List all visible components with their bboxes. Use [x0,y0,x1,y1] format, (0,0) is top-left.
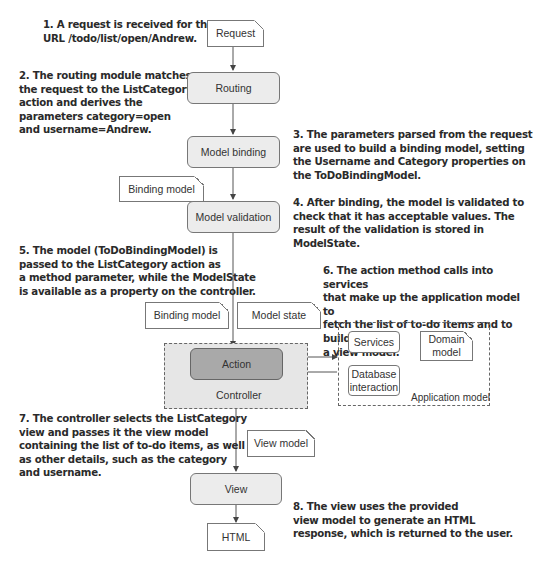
html-document: HTML [207,523,265,551]
model-state-document: Model state [237,302,321,329]
routing-step: Routing [187,72,280,104]
domain-model-document: Domain model [420,331,473,361]
binding-model-document: Binding model [119,176,204,202]
model-binding-step: Model binding [187,136,280,168]
action-step: Action [190,348,283,380]
annotation-7: 7. The controller selects the ListCatego… [19,412,247,480]
controller-label: Controller [216,389,262,401]
model-validation-step: Model validation [187,201,280,233]
services-box: Services [348,331,400,353]
annotation-2: 2. The routing module matches the reques… [19,69,193,137]
annotation-3: 3. The parameters parsed from the reques… [293,128,532,182]
annotation-5: 5. The model (ToDoBindingModel) is passe… [19,244,256,298]
view-step: View [190,473,282,505]
database-interaction-box: Database interaction [348,365,400,396]
annotation-4: 4. After binding, the model is validated… [293,196,524,250]
binding-model-document-2: Binding model [145,302,229,329]
request-document: Request [207,20,264,47]
view-model-document: View model [247,430,315,457]
annotation-8: 8. The view uses the provided view model… [293,500,513,541]
application-model-label: Application model [411,392,490,403]
annotation-1: 1. A request is received for the URL /to… [43,18,214,45]
